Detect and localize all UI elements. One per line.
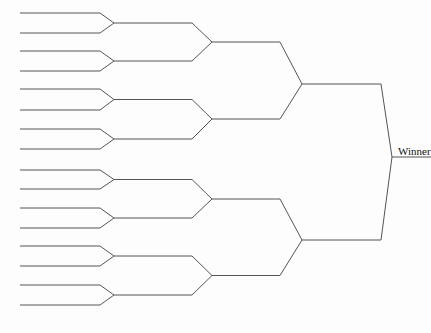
round-3-pair-0-lower-diagonal xyxy=(381,157,392,240)
round-0-pair-0-upper-diagonal xyxy=(100,13,114,23)
round-1-pair-2-lower-diagonal xyxy=(192,199,212,218)
round-0-pair-6-upper-diagonal xyxy=(100,246,114,256)
round-0-pair-5-upper-diagonal xyxy=(100,208,114,218)
winner-label: Winner xyxy=(398,145,431,157)
round-0-pair-1-upper-diagonal xyxy=(100,51,114,61)
round-1-pair-2-upper-diagonal xyxy=(192,180,212,200)
round-0-pair-2-lower-diagonal xyxy=(100,100,114,111)
round-1-pair-1-lower-diagonal xyxy=(192,119,212,139)
round-0-pair-1-lower-diagonal xyxy=(100,61,114,71)
round-2-pair-0-lower-diagonal xyxy=(280,84,302,119)
bracket-line-group xyxy=(20,13,431,305)
round-0-pair-2-upper-diagonal xyxy=(100,89,114,100)
round-2-pair-1-upper-diagonal xyxy=(280,199,302,240)
bracket-page: Winner xyxy=(0,0,431,333)
round-0-pair-6-lower-diagonal xyxy=(100,256,114,266)
round-1-pair-1-upper-diagonal xyxy=(192,100,212,120)
round-0-pair-3-lower-diagonal xyxy=(100,139,114,149)
round-2-pair-1-lower-diagonal xyxy=(280,240,302,276)
round-0-pair-7-lower-diagonal xyxy=(100,295,114,305)
round-0-pair-3-upper-diagonal xyxy=(100,129,114,139)
round-1-pair-0-lower-diagonal xyxy=(192,42,212,61)
round-0-pair-0-lower-diagonal xyxy=(100,23,114,33)
round-0-pair-5-lower-diagonal xyxy=(100,218,114,228)
round-1-pair-3-lower-diagonal xyxy=(192,276,212,296)
round-1-pair-3-upper-diagonal xyxy=(192,256,212,276)
round-2-pair-0-upper-diagonal xyxy=(280,42,302,84)
bracket-diagram: Winner xyxy=(0,0,431,333)
round-1-pair-0-upper-diagonal xyxy=(192,23,212,42)
round-0-pair-4-lower-diagonal xyxy=(100,180,114,190)
round-0-pair-4-upper-diagonal xyxy=(100,170,114,180)
round-3-pair-0-upper-diagonal xyxy=(381,84,392,157)
round-0-pair-7-upper-diagonal xyxy=(100,285,114,295)
